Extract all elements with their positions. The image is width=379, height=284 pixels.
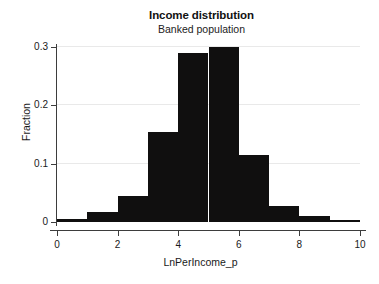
x-tick-mark [178, 231, 179, 236]
x-tick-mark [239, 231, 240, 236]
x-tick-label: 10 [345, 239, 375, 250]
x-tick-mark [57, 231, 58, 236]
chart-subtitle: Banked population [24, 22, 379, 36]
y-axis-label: Fraction [20, 62, 32, 182]
y-axis-line [56, 44, 57, 226]
histogram-bar [269, 206, 299, 222]
x-tick-mark [299, 231, 300, 236]
x-axis-line [50, 230, 366, 231]
y-tick-mark [51, 222, 57, 223]
y-tick-label: 0.3 [34, 42, 48, 52]
y-tick-mark [51, 47, 57, 48]
histogram-bar [87, 212, 117, 222]
y-tick-mark [51, 105, 57, 106]
plot-area [57, 47, 360, 222]
y-tick-label: 0.2 [34, 100, 48, 110]
x-axis-label: LnPerIncome_p [0, 256, 379, 268]
x-tick-label: 4 [163, 239, 193, 250]
x-tick-label: 2 [103, 239, 133, 250]
histogram-bar [299, 216, 329, 222]
histogram-bar [330, 220, 360, 222]
x-tick-mark [118, 231, 119, 236]
x-tick-label: 6 [224, 239, 254, 250]
y-tick-mark [51, 164, 57, 165]
histogram-bar [239, 155, 269, 222]
histogram-chart: Income distribution Banked population 00… [0, 0, 379, 284]
histogram-bar [118, 196, 148, 222]
x-tick-mark [360, 231, 361, 236]
page-title: Income distribution [24, 8, 379, 22]
chart-title-block: Income distribution Banked population [0, 8, 379, 36]
y-tick-label: 0.1 [34, 159, 48, 169]
histogram-bar [148, 132, 178, 222]
x-tick-label: 0 [42, 239, 72, 250]
histogram-bar [57, 219, 87, 222]
x-tick-label: 8 [284, 239, 314, 250]
histogram-bar [178, 53, 208, 222]
histogram-bar [209, 47, 239, 222]
y-tick-label: 0 [42, 217, 48, 227]
